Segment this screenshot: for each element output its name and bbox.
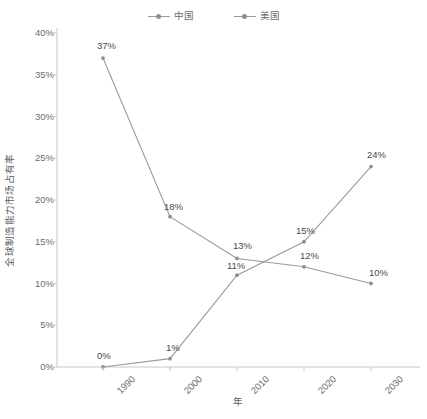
data-label: 15% xyxy=(296,226,315,236)
data-label: 13% xyxy=(233,241,252,251)
x-axis-title: 年 xyxy=(213,394,263,408)
data-label: 1% xyxy=(166,343,180,353)
data-label: 24% xyxy=(367,150,386,160)
data-label: 11% xyxy=(227,261,245,271)
data-label: 0% xyxy=(97,351,111,361)
data-label: 18% xyxy=(164,202,183,212)
data-label: 37% xyxy=(97,41,116,51)
data-label: 12% xyxy=(300,251,319,261)
data-label: 10% xyxy=(369,268,388,278)
line-chart: 中国 美国 全球制造能力市场占有率 0%5%10%15%20%25%30%35%… xyxy=(0,0,427,419)
plot-area xyxy=(0,0,427,419)
